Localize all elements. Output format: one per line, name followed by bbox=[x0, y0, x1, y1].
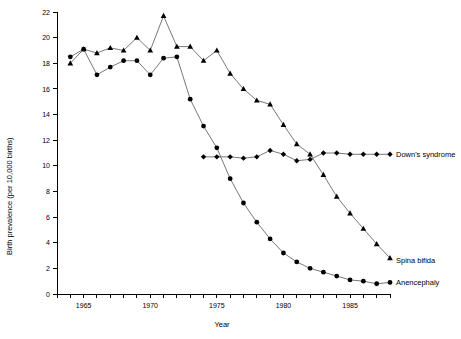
data-point-marker bbox=[321, 270, 326, 275]
data-point-marker bbox=[374, 281, 379, 286]
y-axis-tick-label: 18 bbox=[42, 60, 50, 67]
data-point-marker bbox=[307, 151, 313, 156]
y-axis-tick-label: 2 bbox=[46, 265, 50, 272]
x-axis-tick-label: 1975 bbox=[209, 302, 225, 309]
data-point-marker bbox=[254, 154, 259, 159]
data-point-marker bbox=[174, 54, 179, 59]
data-point-marker bbox=[228, 176, 233, 181]
data-point-marker bbox=[227, 71, 233, 76]
data-point-marker bbox=[321, 172, 327, 177]
series-label-down-s-syndrome: Down's syndrome bbox=[396, 150, 455, 159]
data-point-marker bbox=[321, 150, 326, 155]
data-point-marker bbox=[161, 56, 166, 61]
data-point-marker bbox=[294, 260, 299, 265]
y-axis-tick-label: 22 bbox=[42, 9, 50, 16]
data-point-marker bbox=[374, 152, 379, 157]
series-line-spina-bifida bbox=[70, 16, 390, 258]
y-axis-tick-label: 8 bbox=[46, 188, 50, 195]
data-point-marker bbox=[361, 279, 366, 284]
data-point-marker bbox=[361, 152, 366, 157]
data-point-marker bbox=[281, 122, 287, 127]
x-axis-tick-label: 1980 bbox=[276, 302, 292, 309]
data-point-marker bbox=[161, 13, 167, 18]
y-axis-tick-label: 4 bbox=[46, 239, 50, 246]
y-axis-tick-label: 10 bbox=[42, 162, 50, 169]
data-point-marker bbox=[334, 150, 339, 155]
y-axis-tick-label: 16 bbox=[42, 86, 50, 93]
data-point-marker bbox=[107, 45, 113, 50]
data-point-marker bbox=[188, 97, 193, 102]
x-axis-tick-label: 1985 bbox=[342, 302, 358, 309]
data-point-marker bbox=[294, 158, 299, 163]
y-axis-tick-label: 14 bbox=[42, 111, 50, 118]
series-labels: Spina bifidaAnencephalyDown's syndrome bbox=[396, 150, 455, 287]
x-axis-tick-label: 1970 bbox=[142, 302, 158, 309]
y-axis: 0246810121416182022 bbox=[42, 9, 57, 298]
data-point-marker bbox=[134, 35, 140, 40]
x-axis-title: Year bbox=[214, 320, 230, 329]
data-point-marker bbox=[68, 54, 73, 59]
data-point-marker bbox=[81, 47, 86, 52]
y-axis-tick-label: 0 bbox=[46, 291, 50, 298]
data-point-marker bbox=[214, 47, 220, 52]
data-point-marker bbox=[241, 155, 246, 160]
series-label-anencephaly: Anencephaly bbox=[396, 278, 440, 287]
series-line-anencephaly bbox=[70, 49, 390, 284]
data-point-marker bbox=[254, 220, 259, 225]
x-axis: 19651970197519801985 bbox=[57, 294, 390, 309]
data-point-marker bbox=[267, 148, 272, 153]
data-point-marker bbox=[121, 58, 126, 63]
y-axis-tick-label: 20 bbox=[42, 34, 50, 41]
data-point-marker bbox=[387, 152, 392, 157]
y-axis-tick-label: 12 bbox=[42, 137, 50, 144]
series-layer bbox=[67, 13, 392, 286]
data-point-marker bbox=[348, 278, 353, 283]
data-point-marker bbox=[148, 72, 153, 77]
data-point-marker bbox=[334, 194, 340, 199]
y-axis-tick-label: 6 bbox=[46, 214, 50, 221]
data-point-marker bbox=[227, 154, 232, 159]
data-point-marker bbox=[108, 65, 113, 70]
data-point-marker bbox=[334, 274, 339, 279]
data-point-marker bbox=[347, 152, 352, 157]
data-point-marker bbox=[201, 124, 206, 129]
data-point-marker bbox=[135, 58, 140, 63]
data-point-marker bbox=[268, 236, 273, 241]
data-point-marker bbox=[214, 154, 219, 159]
y-axis-title: Birth prevalence (per 10,000 births) bbox=[5, 137, 14, 255]
chart-container: 0246810121416182022 19651970197519801985… bbox=[0, 0, 461, 339]
data-point-marker bbox=[388, 280, 393, 285]
data-point-marker bbox=[174, 44, 180, 49]
data-point-marker bbox=[95, 72, 100, 77]
data-point-marker bbox=[201, 154, 206, 159]
data-point-marker bbox=[214, 145, 219, 150]
data-point-marker bbox=[187, 44, 193, 49]
data-point-marker bbox=[241, 201, 246, 206]
x-axis-tick-label: 1965 bbox=[76, 302, 92, 309]
data-point-marker bbox=[281, 152, 286, 157]
series-label-spina-bifida: Spina bifida bbox=[396, 256, 436, 265]
data-point-marker bbox=[308, 266, 313, 271]
line-chart: 0246810121416182022 19651970197519801985… bbox=[0, 0, 461, 339]
data-point-marker bbox=[281, 251, 286, 256]
